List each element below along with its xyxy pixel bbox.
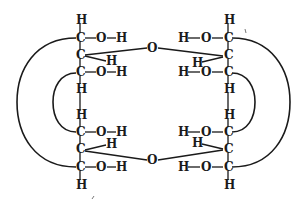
right-c5: C xyxy=(224,142,234,156)
left-o4: O xyxy=(96,125,106,139)
bridge-oxygen-top: O xyxy=(147,41,157,55)
left-inner-arc xyxy=(53,73,76,132)
right-inner-arc xyxy=(232,73,255,132)
right-outer-arc xyxy=(232,38,290,167)
right-h3: H xyxy=(178,65,189,79)
left-c6: C xyxy=(76,160,86,174)
left-o1: O xyxy=(96,31,106,45)
right-top-h: H xyxy=(224,13,235,27)
left-o6: O xyxy=(96,160,106,174)
stray-mark-top xyxy=(245,29,246,33)
chemical-structure-diagram: H C O H C H C O H H H C O H C H C O H H … xyxy=(0,0,307,209)
stray-mark-bottom xyxy=(92,196,94,199)
right-o1: O xyxy=(201,31,211,45)
left-mid-h-upper: H xyxy=(76,82,87,96)
left-h4: H xyxy=(116,125,127,139)
right-o3: O xyxy=(201,65,211,79)
left-h5: H xyxy=(106,137,117,151)
left-c5: C xyxy=(76,142,86,156)
left-h6: H xyxy=(116,160,127,174)
left-bottom-h: H xyxy=(76,178,87,192)
right-c1: C xyxy=(224,31,234,45)
left-mid-h-lower: H xyxy=(76,108,87,122)
right-c3: C xyxy=(224,65,234,79)
right-mid-h-upper: H xyxy=(224,82,235,96)
right-h4: H xyxy=(178,125,189,139)
left-c4: C xyxy=(76,125,86,139)
left-chain: H C O H C H C O H H H C O H C H C O H H xyxy=(76,13,127,192)
right-chain-bonds xyxy=(158,24,228,180)
left-chain-bonds xyxy=(80,24,147,180)
left-c2: C xyxy=(76,48,86,62)
right-h5: H xyxy=(192,136,203,150)
left-c3: C xyxy=(76,65,86,79)
right-c2: C xyxy=(224,48,234,62)
left-top-h: H xyxy=(76,13,87,27)
left-h3: H xyxy=(116,65,127,79)
right-o6: O xyxy=(201,160,211,174)
left-outer-arc xyxy=(17,38,76,167)
right-h1: H xyxy=(178,31,189,45)
left-c1: C xyxy=(76,31,86,45)
right-c4: C xyxy=(224,125,234,139)
right-mid-h-lower: H xyxy=(224,108,235,122)
right-c6: C xyxy=(224,160,234,174)
bridge-oxygen-bottom: O xyxy=(147,153,157,167)
left-o3: O xyxy=(96,65,106,79)
right-chain: H C O H C H C O H H H C O H C H C O H H xyxy=(178,13,235,192)
right-h6: H xyxy=(178,160,189,174)
left-h1: H xyxy=(116,31,127,45)
right-bottom-h: H xyxy=(224,178,235,192)
